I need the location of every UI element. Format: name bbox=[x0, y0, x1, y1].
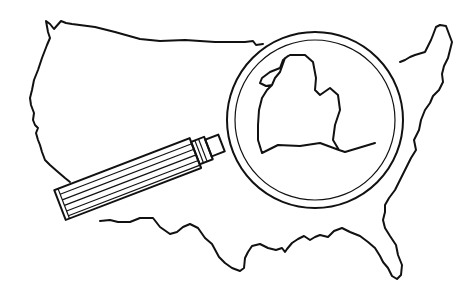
michigan-outline bbox=[258, 55, 375, 153]
magnifier-ring-outer bbox=[227, 32, 403, 208]
us-map-drawing bbox=[0, 0, 475, 302]
magnifier-handle bbox=[54, 128, 227, 220]
illustration: United States map outline with magnifyin… bbox=[0, 0, 475, 302]
